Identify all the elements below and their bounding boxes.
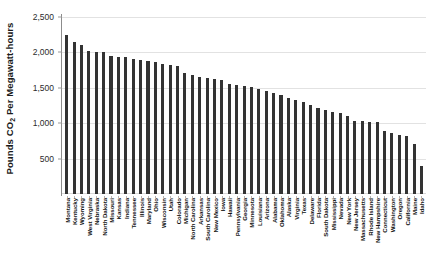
x-axis-tick-label: South Carolina <box>204 198 211 241</box>
x-axis-tick-label: Arizona <box>263 198 270 220</box>
x-axis-tick-label: New York <box>344 198 351 225</box>
bar <box>80 45 83 194</box>
bar-slot <box>70 17 77 194</box>
bar-slot <box>300 17 307 194</box>
x-label-slot: Rhode Island <box>366 196 373 264</box>
bar <box>250 87 253 194</box>
bar <box>235 85 238 194</box>
bar-series <box>62 17 426 194</box>
x-axis-tick-labels: MontanaKentuckyWyomingWest VirginiaNebra… <box>62 196 426 264</box>
bar <box>390 133 393 194</box>
x-label-slot: Idaho <box>418 196 425 264</box>
x-axis-tick-label: Georgia <box>241 198 248 221</box>
x-label-slot: Indiana <box>122 196 129 264</box>
x-axis-tick-label: Iowa <box>218 198 225 211</box>
bar-slot <box>336 17 343 194</box>
bar <box>102 52 105 194</box>
x-axis-tick-label: Idaho <box>418 198 425 214</box>
y-axis-tick-labels: 5001,0001,5002,0002,500 <box>18 0 58 196</box>
bar <box>265 91 268 194</box>
x-axis-tick-label: New Jersey <box>351 198 358 231</box>
bar <box>287 98 290 194</box>
bar-slot <box>314 17 321 194</box>
x-axis-tick-label: Nevada <box>337 198 344 219</box>
bar-slot <box>122 17 129 194</box>
x-axis-tick-label: Utah <box>167 198 174 211</box>
bar-slot <box>263 17 270 194</box>
x-label-slot: Hawaii <box>226 196 233 264</box>
bar-slot <box>270 17 277 194</box>
x-axis-tick-label: Maryland <box>144 198 151 224</box>
bar-slot <box>130 17 137 194</box>
y-axis-tick-label: 1,500 <box>33 83 54 93</box>
x-label-slot: South Carolina <box>203 196 210 264</box>
bar-slot <box>85 17 92 194</box>
x-label-slot: Alaska <box>285 196 292 264</box>
bar <box>73 42 76 194</box>
x-label-slot: Nevada <box>336 196 343 264</box>
bar <box>228 84 231 194</box>
bar <box>183 73 186 194</box>
bar-slot <box>115 17 122 194</box>
x-axis-tick-label: Arkansas <box>196 198 203 225</box>
bar-slot <box>78 17 85 194</box>
x-label-slot: North Carolina <box>189 196 196 264</box>
bar-slot <box>410 17 417 194</box>
bar-slot <box>137 17 144 194</box>
bar <box>302 102 305 194</box>
x-label-slot: Connecticut <box>381 196 388 264</box>
bar <box>117 57 120 194</box>
x-label-slot: Utah <box>166 196 173 264</box>
y-axis-tick-label: 2,500 <box>33 12 54 22</box>
bar-slot <box>366 17 373 194</box>
x-label-slot: Massachusetts <box>359 196 366 264</box>
x-label-slot: North Dakota <box>100 196 107 264</box>
bar-slot <box>63 17 70 194</box>
x-axis-tick-label: Washington <box>388 198 395 232</box>
bar <box>154 62 157 194</box>
bar <box>309 105 312 194</box>
bar <box>257 89 260 194</box>
bar-slot <box>403 17 410 194</box>
bar-slot <box>277 17 284 194</box>
bar-slot <box>203 17 210 194</box>
x-axis-tick-label: Hawaii <box>226 198 233 217</box>
co2-emissions-bar-chart: Pounds CO2 Per Megawatt-hours 5001,0001,… <box>0 0 439 264</box>
x-axis-tick-label: Colorado <box>174 198 181 224</box>
x-label-slot: Pennsylvania <box>233 196 240 264</box>
x-axis-tick-label: Wyoming <box>78 198 85 225</box>
bar-slot <box>189 17 196 194</box>
x-axis-tick-label: Mississippi <box>329 198 336 230</box>
bar <box>420 166 423 194</box>
bar-slot <box>255 17 262 194</box>
y-axis-title: Pounds CO2 Per Megawatt-hours <box>0 0 20 196</box>
bar-slot <box>93 17 100 194</box>
x-label-slot: California <box>403 196 410 264</box>
y-axis-tick-label: 500 <box>40 154 54 164</box>
bar <box>169 65 172 194</box>
x-label-slot: Arizona <box>263 196 270 264</box>
bar <box>109 56 112 194</box>
bar-slot <box>351 17 358 194</box>
bar <box>339 113 342 194</box>
bar-slot <box>418 17 425 194</box>
x-label-slot: New York <box>344 196 351 264</box>
x-label-slot: Delaware <box>307 196 314 264</box>
bar <box>346 116 349 194</box>
x-label-slot: Washington <box>388 196 395 264</box>
bar <box>413 144 416 194</box>
x-axis-tick-label: Massachusetts <box>359 198 366 241</box>
bar <box>331 112 334 194</box>
plot-area <box>62 17 426 194</box>
bar <box>206 78 209 194</box>
bar <box>383 131 386 194</box>
x-axis-tick-label: North Dakota <box>100 198 107 236</box>
x-axis-tick-label: Montana <box>63 198 70 223</box>
y-axis-tick-mark <box>58 158 62 159</box>
x-axis-tick-label: Oklahoma <box>278 198 285 227</box>
bar-slot <box>152 17 159 194</box>
bar-slot <box>329 17 336 194</box>
bar-slot <box>181 17 188 194</box>
y-axis-tick-mark <box>58 17 62 18</box>
bar-slot <box>226 17 233 194</box>
